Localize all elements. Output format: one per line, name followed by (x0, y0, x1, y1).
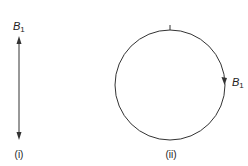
panel-i-double-arrow (17, 36, 22, 140)
panel-ii-circle (115, 25, 227, 140)
figure: B1 (i) B1 (ii) (0, 0, 248, 166)
panel-i-b1-label: B1 (13, 21, 25, 35)
direction-arrowhead-icon (222, 77, 228, 85)
panel-ii-b1-label: B1 (232, 77, 244, 91)
panel-i-caption: (i) (15, 150, 24, 160)
diagram-svg (0, 0, 248, 166)
panel-ii-caption: (ii) (165, 150, 176, 160)
